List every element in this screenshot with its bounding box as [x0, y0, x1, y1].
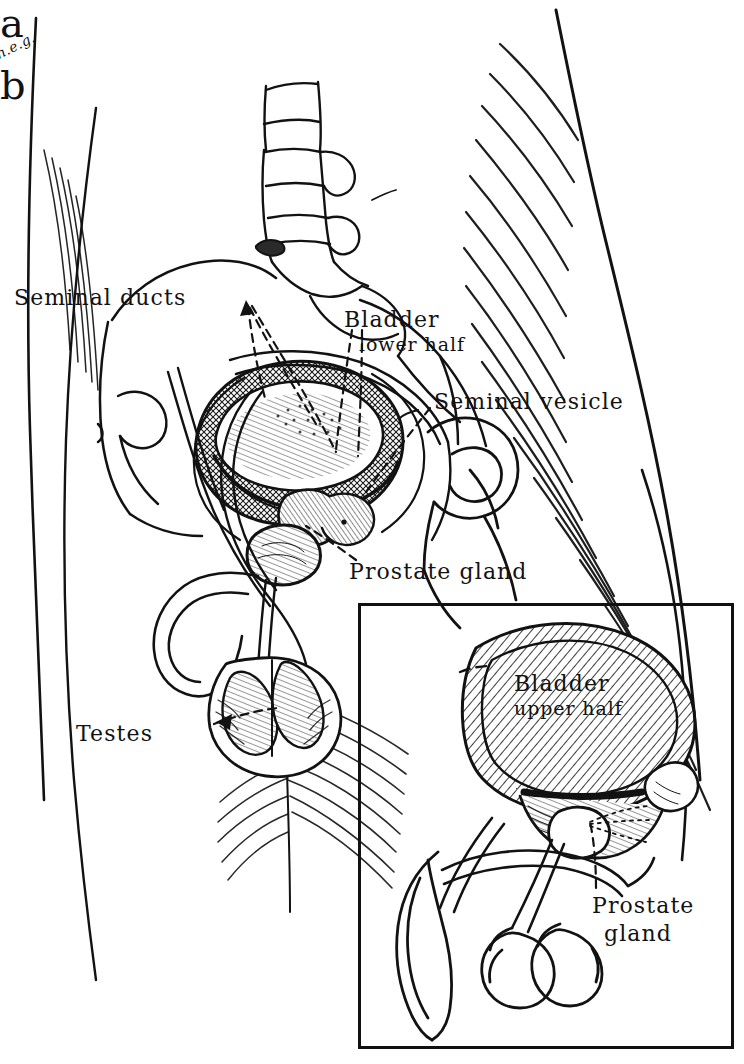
label-bladder-lower-half-line1: Bladder [344, 309, 440, 331]
label-bladder-upper-half-line2: upper half [514, 699, 623, 718]
label-bladder-lower-half-line2: lower half [359, 335, 465, 354]
body-outline-left [28, 18, 44, 800]
torso-left-contour [64, 108, 96, 980]
inset-panel-frame [358, 603, 734, 1049]
anatomical-plate: a Seminal ducts Bladder lower half Semin… [0, 0, 744, 1064]
label-prostate-b-line2: gland [604, 923, 672, 945]
label-seminal-vesicle: Seminal vesicle [434, 391, 624, 413]
pubic-bone-left [98, 392, 166, 504]
annotation-leader [372, 190, 396, 200]
label-bladder-upper-half-line1: Bladder [514, 673, 610, 695]
label-testes: Testes [76, 723, 153, 745]
sacral-promontory-marker [256, 240, 285, 256]
lumbar-spine [263, 82, 360, 262]
label-prostate-gland-a: Prostate gland [349, 561, 528, 583]
label-prostate-b-line1: Prostate [592, 895, 694, 917]
label-seminal-ducts: Seminal ducts [14, 287, 186, 309]
